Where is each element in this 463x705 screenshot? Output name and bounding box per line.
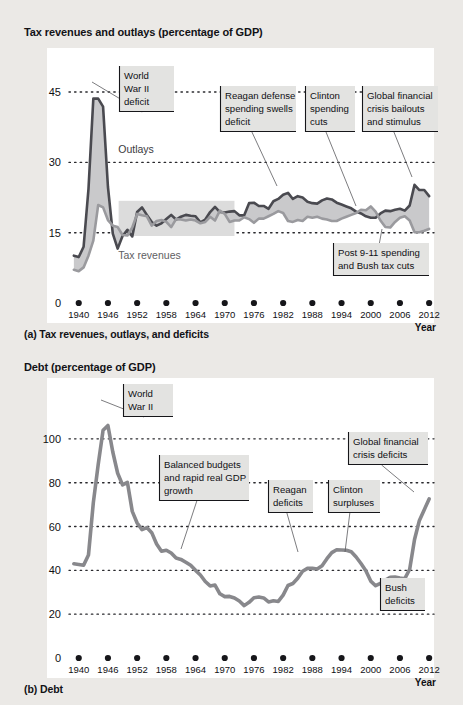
- callout-line: Clinton: [310, 90, 340, 101]
- callout-leader-line: [252, 132, 277, 186]
- y-axis-label-40: 40: [49, 564, 61, 576]
- x-axis-label-1940: 1940: [68, 664, 89, 675]
- x-tick-dot-2006: [397, 300, 403, 306]
- callout-line: and rapid real GDP: [164, 472, 246, 483]
- panel-a-title: Tax revenues and outlays (percentage of …: [24, 26, 263, 38]
- callout-line: spending swells: [225, 103, 293, 114]
- y-axis-label-15: 15: [49, 227, 61, 239]
- callout-clinton-surpluses: Clintonsurpluses: [328, 480, 380, 552]
- x-tick-dot-1946: [105, 300, 111, 306]
- x-tick-dot-1946: [105, 655, 111, 661]
- panel-b-title: Debt (percentage of GDP): [24, 361, 155, 373]
- x-tick-dot-1976: [251, 655, 257, 661]
- callout-line: spending: [310, 103, 349, 114]
- x-axis-label-2006: 2006: [389, 309, 410, 320]
- x-axis-label-1958: 1958: [156, 664, 177, 675]
- x-tick-dot-1958: [163, 655, 169, 661]
- x-axis-label-1994: 1994: [331, 664, 352, 675]
- x-axis-label-1958: 1958: [156, 309, 177, 320]
- callout-line: Reagan: [273, 484, 307, 495]
- callout-reagan-defense: Reagan defensespending swellsdeficit: [220, 86, 296, 186]
- x-axis-label-1970: 1970: [214, 664, 235, 675]
- x-axis-name: Year: [415, 677, 436, 688]
- x-axis-label-2006: 2006: [389, 664, 410, 675]
- panel-a-chart-svg: 0153045194019461952195819641970197619821…: [0, 48, 463, 323]
- x-tick-dot-1952: [134, 655, 140, 661]
- panel-b-caption: (b) Debt: [24, 683, 63, 695]
- callout-line: Reagan defense: [225, 90, 295, 101]
- callout-line: deficits: [273, 497, 303, 508]
- callout-leader-line: [181, 501, 197, 549]
- callout-line: Clinton: [333, 484, 363, 495]
- callout-line: Post 9-11 spending: [338, 247, 420, 258]
- x-tick-dot-1982: [280, 655, 286, 661]
- callout-line: and Bush tax cuts: [338, 260, 414, 271]
- x-tick-dot-1988: [309, 300, 315, 306]
- y-axis-label-30: 30: [49, 156, 61, 168]
- y-axis-label-60: 60: [49, 521, 61, 533]
- x-tick-dot-1970: [222, 655, 228, 661]
- x-axis-label-1952: 1952: [127, 664, 148, 675]
- callout-line: Balanced budgets: [164, 459, 241, 470]
- x-tick-dot-2000: [368, 655, 374, 661]
- x-axis-label-1940: 1940: [68, 309, 89, 320]
- callout-world-war-ii-deficit: WorldWar IIdeficit: [92, 66, 174, 112]
- x-axis-label-2000: 2000: [360, 309, 381, 320]
- callout-reagan-deficits: Reagandeficits: [268, 480, 313, 552]
- callout-line: crisis deficits: [353, 449, 408, 460]
- callout-line: deficit: [124, 96, 149, 107]
- callout-leader-line: [382, 465, 414, 492]
- y-axis-label-100: 100: [43, 433, 61, 445]
- x-tick-dot-1970: [222, 300, 228, 306]
- callout-leader-line: [394, 132, 412, 177]
- x-tick-dot-2000: [368, 300, 374, 306]
- x-tick-dot-1952: [134, 300, 140, 306]
- callout-line: War II: [128, 401, 153, 412]
- x-axis-label-1970: 1970: [214, 309, 235, 320]
- y-axis-label-80: 80: [49, 477, 61, 489]
- callout-line: crisis bailouts: [367, 103, 425, 114]
- callout-bush-deficits: Bushdeficits: [380, 577, 425, 611]
- callout-line: Global financial: [367, 90, 433, 101]
- x-tick-dot-1982: [280, 300, 286, 306]
- x-tick-dot-2012: [426, 655, 432, 661]
- callout-clinton-spending-cuts: Clintonspendingcuts: [305, 86, 356, 206]
- y-axis-label-20: 20: [49, 608, 61, 620]
- panel-a-caption: (a) Tax revenues, outlays, and deficits: [24, 328, 209, 340]
- callout-balanced-budgets: Balanced budgetsand rapid real GDPgrowth: [159, 455, 249, 549]
- x-tick-dot-1958: [163, 300, 169, 306]
- callout-line: deficit: [225, 116, 250, 127]
- panel-a-plot: 0153045194019461952195819641970197619821…: [0, 48, 463, 323]
- x-tick-dot-2006: [397, 655, 403, 661]
- x-axis-label-2012: 2012: [419, 309, 440, 320]
- callout-line: World: [128, 388, 153, 399]
- x-axis-label-1952: 1952: [127, 309, 148, 320]
- x-axis-label-1946: 1946: [97, 309, 118, 320]
- callout-line: growth: [164, 485, 193, 496]
- panel-b-chart-svg: 0204060801001940194619521958196419701976…: [0, 378, 463, 678]
- x-axis-label-1976: 1976: [243, 664, 264, 675]
- x-tick-dot-1988: [309, 655, 315, 661]
- figure-federal-budget: Tax revenues and outlays (percentage of …: [0, 0, 463, 705]
- callout-line: surpluses: [333, 497, 374, 508]
- x-axis-label-1982: 1982: [273, 309, 294, 320]
- x-tick-dot-1964: [192, 300, 198, 306]
- callout-line: Bush: [385, 582, 407, 593]
- x-axis-label-1946: 1946: [97, 664, 118, 675]
- panel-b-plot: 0204060801001940194619521958196419701976…: [0, 378, 463, 678]
- callout-post-911-spending: Post 9-11 spendingand Bush tax cuts: [333, 229, 429, 276]
- x-tick-dot-1940: [76, 300, 82, 306]
- callout-line: War II: [124, 83, 149, 94]
- x-tick-dot-1964: [192, 655, 198, 661]
- x-tick-dot-1994: [338, 655, 344, 661]
- y-axis-label-45: 45: [49, 86, 61, 98]
- callout-leader-line: [326, 132, 356, 206]
- x-axis-name: Year: [415, 322, 436, 333]
- x-tick-dot-1994: [338, 300, 344, 306]
- callout-leader-line: [345, 513, 350, 552]
- callout-line: deficits: [385, 595, 415, 606]
- x-axis-label-1976: 1976: [243, 309, 264, 320]
- x-axis-label-1964: 1964: [185, 309, 206, 320]
- x-tick-dot-2012: [426, 300, 432, 306]
- callout-leader-line: [287, 513, 298, 552]
